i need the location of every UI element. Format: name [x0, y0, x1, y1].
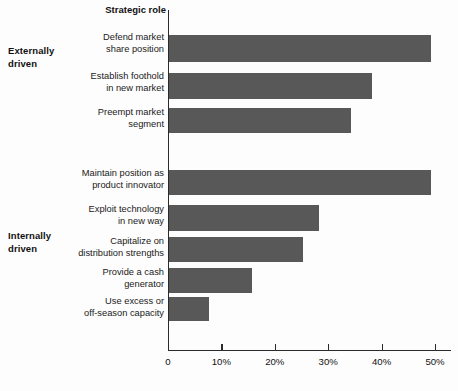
x-axis-tick-mark — [221, 344, 222, 351]
x-axis-tick-label: 40% — [372, 356, 391, 367]
x-axis-tick-mark — [328, 344, 329, 351]
bar — [169, 297, 209, 321]
category-label: Establish foothold in new market — [4, 71, 164, 94]
x-axis-tick-label: 10% — [212, 356, 231, 367]
strategic-role-bar-chart: Strategic role Externally driven Interna… — [0, 0, 458, 391]
x-axis-tick-mark — [382, 344, 383, 351]
chart-title: Strategic role — [105, 4, 166, 15]
bar — [169, 268, 252, 293]
category-label: Defend market share position — [4, 32, 164, 55]
bar — [169, 35, 431, 62]
category-label: Use excess or off-season capacity — [4, 296, 164, 319]
x-axis-tick-label: 50% — [425, 356, 444, 367]
category-label: Provide a cash generator — [4, 267, 164, 290]
category-label: Preempt market segment — [4, 107, 164, 130]
x-axis-tick-label: 30% — [319, 356, 338, 367]
x-axis-line — [168, 350, 451, 351]
x-axis-tick-label: 20% — [265, 356, 284, 367]
plot-area: 010%20%30%40%50% — [168, 10, 451, 351]
x-axis-tick-mark — [275, 344, 276, 351]
bar — [169, 237, 303, 262]
bar — [169, 73, 372, 99]
category-label: Maintain position as product innovator — [4, 168, 164, 191]
category-label: Exploit technology in new way — [4, 204, 164, 227]
bar — [169, 170, 431, 195]
bar — [169, 108, 351, 133]
category-label: Capitalize on distribution strengths — [4, 236, 164, 259]
x-axis-tick-mark — [435, 344, 436, 351]
bar — [169, 205, 319, 231]
x-axis-tick-label: 0 — [165, 356, 170, 367]
